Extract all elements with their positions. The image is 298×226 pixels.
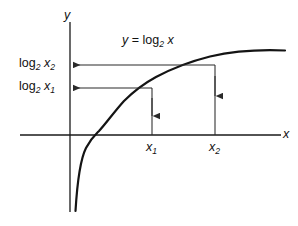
- y-tick-label-log-x2: log2 x2: [19, 57, 55, 70]
- logarithm-figure: log2 x2 log2 x1 y = log2 x x1 x2 y x: [0, 0, 298, 226]
- x-tick-label-x1: x1: [146, 141, 157, 154]
- y-axis-label: y: [64, 9, 70, 22]
- equation-func: log: [143, 33, 160, 47]
- log-base: 2: [36, 62, 41, 72]
- x-axis-label: x: [283, 128, 289, 141]
- equation-equals: =: [128, 33, 142, 47]
- log-arg-sub: 1: [50, 85, 55, 95]
- x-tick-label-x2: x2: [209, 141, 220, 154]
- log-text: log: [19, 56, 36, 70]
- log-text: log: [19, 79, 36, 93]
- equation-label: y = log2 x: [122, 34, 174, 47]
- log-base: 2: [36, 85, 41, 95]
- log2-curve: [76, 50, 286, 211]
- log-arg-sub: 2: [50, 62, 55, 72]
- equation-base: 2: [159, 39, 164, 49]
- x-subscript: 2: [215, 146, 220, 156]
- y-tick-label-log-x1: log2 x1: [19, 80, 55, 93]
- y-axis-label-text: y: [64, 8, 70, 22]
- equation-arg: x: [164, 33, 174, 47]
- x-subscript: 1: [152, 146, 157, 156]
- x-axis-label-text: x: [283, 127, 289, 141]
